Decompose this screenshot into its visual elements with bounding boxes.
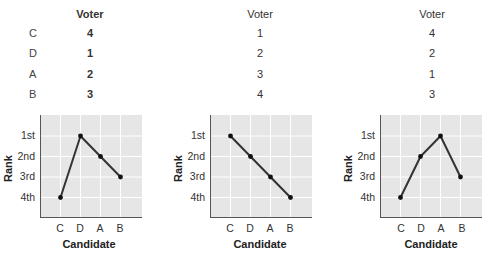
xtick-a: A	[266, 222, 273, 234]
ytick-1st: 1st	[345, 129, 375, 141]
voter1-rank-c: 4	[87, 27, 93, 39]
xtick-d: D	[417, 222, 425, 234]
xtick-b: B	[116, 222, 123, 234]
ytick-1st: 1st	[5, 129, 35, 141]
line-plot	[210, 115, 312, 218]
voter-header-1: Voter	[76, 8, 103, 20]
x-axis-label: Candidate	[404, 238, 457, 250]
ytick-1st: 1st	[175, 129, 205, 141]
xtick-b: B	[286, 222, 293, 234]
ytick-4th: 4th	[5, 191, 35, 203]
voter3-rank-b: 3	[429, 88, 435, 100]
candidate-label-b: B	[29, 88, 36, 100]
voter-header-2: Voter	[247, 8, 273, 20]
x-axis-label: Candidate	[233, 238, 286, 250]
xtick-b: B	[458, 222, 465, 234]
voter2-rank-b: 4	[257, 88, 263, 100]
candidate-label-a: A	[29, 68, 36, 80]
voter2-rank-a: 3	[257, 68, 263, 80]
x-axis-label: Candidate	[62, 238, 115, 250]
xtick-c: C	[56, 222, 64, 234]
xtick-d: D	[76, 222, 84, 234]
candidate-label-d: D	[29, 47, 37, 59]
y-axis-label: Rank	[2, 155, 14, 182]
voter-header-3: Voter	[419, 8, 445, 20]
voter1-rank-b: 3	[87, 88, 93, 100]
voter2-rank-c: 1	[257, 27, 263, 39]
xtick-c: C	[397, 222, 405, 234]
voter1-rank-d: 1	[87, 47, 93, 59]
ytick-4th: 4th	[345, 191, 375, 203]
xtick-d: D	[246, 222, 254, 234]
voter3-rank-a: 1	[429, 68, 435, 80]
xtick-a: A	[96, 222, 103, 234]
y-axis-label: Rank	[172, 155, 184, 182]
ytick-4th: 4th	[175, 191, 205, 203]
voter1-rank-a: 2	[87, 68, 93, 80]
voter3-rank-d: 2	[429, 47, 435, 59]
xtick-a: A	[437, 222, 444, 234]
line-plot	[40, 115, 142, 218]
xtick-c: C	[226, 222, 234, 234]
voter3-rank-c: 4	[429, 27, 435, 39]
voter2-rank-d: 2	[257, 47, 263, 59]
line-plot	[380, 115, 482, 218]
y-axis-label: Rank	[342, 155, 354, 182]
candidate-label-c: C	[29, 27, 37, 39]
